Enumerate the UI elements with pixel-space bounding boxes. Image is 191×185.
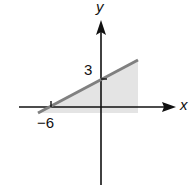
x-axis-label: x [180,96,188,113]
y-axis-label: y [96,0,104,15]
x-tick-label: −6 [37,114,54,131]
y-tick-label: 3 [84,61,92,78]
chart-plot [0,0,191,185]
x-axis-arrow-icon [162,102,176,112]
